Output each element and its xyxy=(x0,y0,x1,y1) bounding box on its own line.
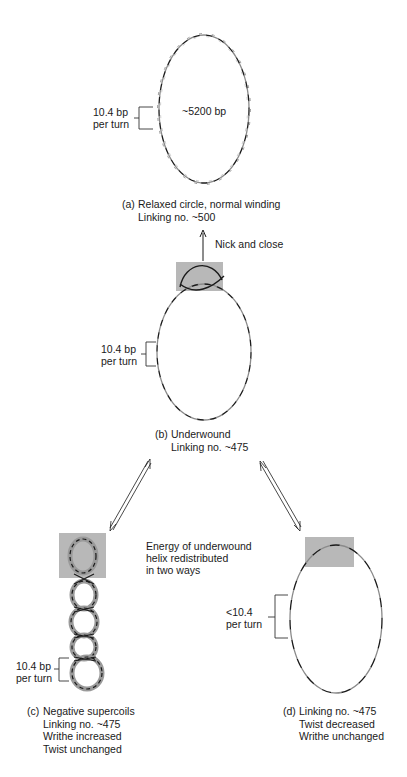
caption-b: (b)Underwound Linking no. ~475 xyxy=(155,428,248,453)
turn-label-a-line2: per turn xyxy=(93,118,129,130)
caption-c-line2: Linking no. ~475 xyxy=(27,718,135,731)
caption-b-line2: Linking no. ~475 xyxy=(155,441,248,454)
turn-label-a: 10.4 bp per turn xyxy=(93,106,129,130)
caption-a-tag: (a) xyxy=(122,198,138,211)
twist-decreased-helix xyxy=(290,545,382,693)
caption-c-line1: Negative supercoils xyxy=(43,705,135,717)
caption-c-line3: Writhe increased xyxy=(27,730,135,743)
caption-c: (c)Negative supercoils Linking no. ~475 … xyxy=(27,705,135,755)
caption-b-tag: (b) xyxy=(155,428,171,441)
highlight-box-d xyxy=(305,537,354,567)
turn-bracket-a xyxy=(134,107,153,129)
turn-label-c-line1: 10.4 bp xyxy=(16,660,52,672)
equilibrium-arrow-right xyxy=(260,461,301,531)
energy-note-line1: Energy of underwound xyxy=(146,540,252,552)
turn-label-b: 10.4 bp per turn xyxy=(101,343,137,367)
caption-c-line4: Twist unchanged xyxy=(27,743,135,756)
turn-label-d-line2: per turn xyxy=(226,618,262,630)
turn-label-d-line1: <10.4 xyxy=(226,606,262,618)
nick-and-close-arrow xyxy=(200,230,206,261)
caption-c-tag: (c) xyxy=(27,705,43,718)
caption-d: (d)Linking no. ~475 Twist decreased Writ… xyxy=(283,705,384,743)
turn-label-b-line1: 10.4 bp xyxy=(101,343,137,355)
equilibrium-arrow-left xyxy=(110,459,151,531)
turn-label-c: 10.4 bp per turn xyxy=(16,660,52,684)
turn-label-b-line2: per turn xyxy=(101,355,137,367)
caption-d-line2: Twist decreased xyxy=(283,718,384,731)
energy-note-line2: helix redistributed xyxy=(146,552,252,564)
caption-a-line1: Relaxed circle, normal winding xyxy=(138,198,280,210)
turn-label-c-line2: per turn xyxy=(16,672,52,684)
caption-d-line1: Linking no. ~475 xyxy=(299,705,376,717)
turn-label-a-line1: 10.4 bp xyxy=(93,106,129,118)
size-label-a: ~5200 bp xyxy=(182,105,226,117)
caption-a: (a)Relaxed circle, normal winding Linkin… xyxy=(122,198,280,223)
underwound-helix xyxy=(157,266,251,420)
turn-bracket-d xyxy=(268,595,288,638)
caption-d-tag: (d) xyxy=(283,705,299,718)
energy-note: Energy of underwound helix redistributed… xyxy=(146,540,252,576)
caption-a-line2: Linking no. ~500 xyxy=(122,211,280,224)
caption-b-line1: Underwound xyxy=(171,428,231,440)
nick-and-close-label: Nick and close xyxy=(215,238,283,250)
caption-d-line3: Writhe unchanged xyxy=(283,730,384,743)
turn-bracket-c xyxy=(54,658,69,681)
turn-bracket-b xyxy=(141,342,156,366)
turn-label-d: <10.4 per turn xyxy=(226,606,262,630)
energy-note-line3: in two ways xyxy=(146,564,252,576)
